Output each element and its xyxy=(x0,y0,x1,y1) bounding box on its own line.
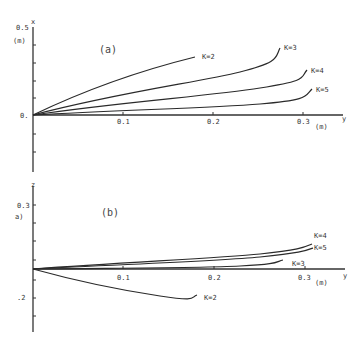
panel-a-y-origin-label: 0. xyxy=(20,112,28,120)
panel-b-x-axis-label: y xyxy=(343,272,347,280)
panel-a-x-tick-0.1: 0.1 xyxy=(117,118,130,126)
panel-a-y-unit: (m) xyxy=(13,37,26,45)
panel-a-y-top-tick-label: 0.5 xyxy=(16,24,29,32)
panel-b-y-unit: a) xyxy=(15,213,23,221)
panel-a-x-unit: (m) xyxy=(315,123,328,131)
panel-a-x-tick-0.3: 0.3 xyxy=(297,118,310,126)
curve-label-k3: K=3 xyxy=(292,260,305,268)
figure: x 0.5 (m) 0. 0.1 0.2 0.3 y (m) (a) K=2 K… xyxy=(0,0,363,342)
curve-label-k4: K=4 xyxy=(311,67,324,75)
panel-b-x-unit: (m) xyxy=(315,279,328,287)
panel-a-x-axis-label: y xyxy=(342,115,346,123)
panel-b-x-tick-0.1: 0.1 xyxy=(117,274,130,282)
panel-b-label: (b) xyxy=(101,207,119,218)
panel-b-y-axis-label: z xyxy=(31,181,35,189)
panel-a-label: (a) xyxy=(99,44,117,55)
curve-k5 xyxy=(33,89,312,115)
curve-label-k3: K=3 xyxy=(284,44,297,52)
panel-a: x 0.5 (m) 0. 0.1 0.2 0.3 y (m) (a) K=2 K… xyxy=(13,18,346,172)
panel-b-x-tick-0.3: 0.3 xyxy=(298,274,311,282)
curve-k2 xyxy=(33,269,197,299)
curve-label-k5: K=5 xyxy=(314,244,327,252)
curve-label-k4: K=4 xyxy=(314,232,327,240)
panel-b-y-low-tick-label: .2 xyxy=(17,294,25,302)
panel-b: z 0.3 a) .2 0.1 0.2 0.3 y (m) (b) K=4 K=… xyxy=(15,181,347,332)
panel-b-y-top-tick-label: 0.3 xyxy=(17,202,30,210)
curve-label-k2: K=2 xyxy=(204,294,217,302)
curve-label-k5: K=5 xyxy=(316,86,329,94)
panel-a-x-tick-0.2: 0.2 xyxy=(207,118,220,126)
panel-b-x-tick-0.2: 0.2 xyxy=(208,274,221,282)
curve-label-k2: K=2 xyxy=(202,53,215,61)
panel-a-y-axis-label: x xyxy=(31,18,35,26)
